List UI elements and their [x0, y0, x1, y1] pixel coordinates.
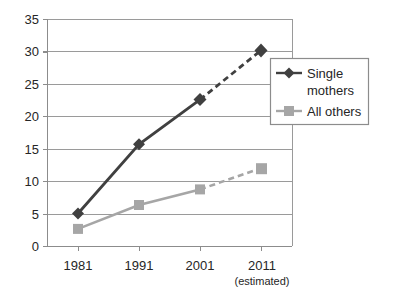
plot-area-background — [47, 19, 292, 246]
y-axis-label-0: 0 — [32, 239, 39, 254]
line-chart: 35 30 25 20 15 10 5 0 1981 1991 2001 201… — [0, 0, 394, 306]
data-point-all-others-1991 — [134, 200, 144, 210]
x-axis-label-2011: 2011 — [248, 258, 276, 273]
y-axis-label-25: 25 — [25, 77, 39, 92]
x-axis-label-2001: 2001 — [186, 258, 215, 273]
legend-label-single-mothers-line2: mothers — [307, 83, 354, 98]
data-point-all-others-1981 — [73, 224, 83, 234]
y-axis-ticks — [43, 20, 47, 247]
chart-legend[interactable]: Single mothers All others — [271, 59, 369, 125]
y-axis-label-30: 30 — [25, 44, 39, 59]
y-axis-label-35: 35 — [25, 12, 39, 27]
data-point-all-others-2001 — [195, 184, 205, 194]
x-axis-label-1981: 1981 — [64, 258, 93, 273]
y-axis-label-10: 10 — [25, 174, 39, 189]
x-axis-label-1991: 1991 — [125, 258, 154, 273]
legend-label-all-others: All others — [307, 104, 362, 119]
y-axis-label-15: 15 — [25, 142, 39, 157]
y-axis-label-20: 20 — [25, 109, 39, 124]
chart-container: 35 30 25 20 15 10 5 0 1981 1991 2001 201… — [0, 0, 394, 306]
y-axis-label-5: 5 — [32, 207, 39, 222]
x-axis-sublabel-estimated: (estimated) — [234, 275, 289, 287]
data-point-all-others-2011 — [256, 163, 267, 174]
legend-label-single-mothers-line1: Single — [307, 66, 343, 81]
square-marker-icon — [284, 106, 294, 116]
